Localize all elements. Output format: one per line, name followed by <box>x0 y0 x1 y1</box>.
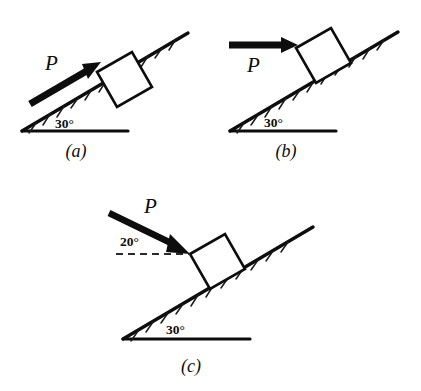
force-label-c: P <box>143 194 157 218</box>
force-arrowhead-c <box>166 234 190 254</box>
force-label-a: P <box>44 51 58 75</box>
force-arrow-b <box>229 37 298 53</box>
panel-c: P 20° 30° (c) <box>78 192 358 391</box>
incline-angle-label-c: 30° <box>166 322 185 337</box>
force-arrow-a <box>30 62 101 104</box>
panel-caption-b: (b) <box>276 141 297 162</box>
panel-caption-c: (c) <box>181 356 201 377</box>
panel-b: P 30° (b) <box>212 0 412 170</box>
block-c <box>190 234 245 289</box>
incline-angle-label-b: 30° <box>264 115 283 130</box>
incline-angle-label-a: 30° <box>55 116 74 131</box>
force-label-b: P <box>246 53 260 77</box>
panel-a: P 30° (a) <box>0 0 200 170</box>
force-arrowhead-b <box>281 37 298 53</box>
physics-figure: P 30° (a) <box>0 0 421 391</box>
panel-caption-a: (a) <box>66 141 87 162</box>
panel-b-diagram: P 30° (b) <box>212 0 412 170</box>
panel-c-diagram: P 20° 30° (c) <box>78 192 358 391</box>
block-b <box>296 28 351 83</box>
reference-angle-label-c: 20° <box>120 234 139 249</box>
panel-a-diagram: P 30° (a) <box>0 0 200 170</box>
